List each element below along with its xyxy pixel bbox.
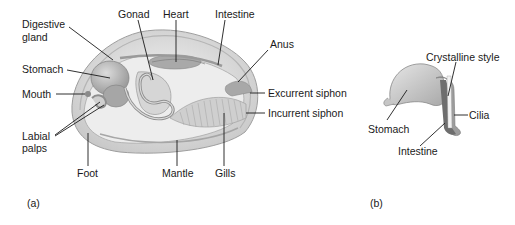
label-cilia: Cilia (469, 109, 489, 121)
label-stomach-a: Stomach (22, 63, 63, 75)
label-stomach-b: Stomach (368, 123, 409, 135)
panel-label-a: (a) (27, 197, 40, 209)
label-labial-palps-line2: palps (22, 142, 47, 154)
label-mantle: Mantle (162, 167, 194, 179)
label-excurrent-siphon: Excurrent siphon (268, 87, 347, 99)
panel-label-b: (b) (370, 197, 383, 209)
clam-anatomy-figure: Digestive gland Gonad Heart Intestine An… (0, 0, 515, 225)
illustration (0, 0, 515, 225)
label-foot: Foot (77, 167, 98, 179)
label-heart: Heart (163, 8, 189, 20)
label-intestine-b: Intestine (398, 145, 438, 157)
label-intestine-a: Intestine (215, 8, 255, 20)
label-digestive-gland-line1: Digestive (22, 18, 65, 30)
label-gills: Gills (215, 167, 235, 179)
clam-illustration (72, 30, 258, 153)
label-anus: Anus (270, 38, 294, 50)
label-labial-palps-line1: Labial (22, 130, 50, 142)
label-crystalline-style: Crystalline style (426, 51, 500, 63)
label-digestive-gland-line2: gland (22, 31, 48, 43)
label-mouth: Mouth (22, 88, 51, 100)
label-gonad: Gonad (118, 8, 150, 20)
label-incurrent-siphon: Incurrent siphon (268, 107, 343, 119)
stomach-b (390, 64, 446, 106)
